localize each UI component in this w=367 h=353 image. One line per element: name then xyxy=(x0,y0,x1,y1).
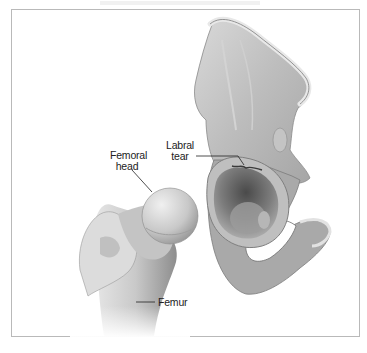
femoral-head-label-line2: head xyxy=(110,161,144,172)
femoral-head-leader xyxy=(132,170,152,192)
femur-label: Femur xyxy=(158,297,187,308)
labral-tear-label: Labral tear xyxy=(165,140,195,162)
femoral-head-label: Femoral head xyxy=(110,150,144,172)
femoral-head xyxy=(142,188,198,244)
labral-tear-label-line2: tear xyxy=(165,151,195,162)
femur xyxy=(70,188,198,338)
